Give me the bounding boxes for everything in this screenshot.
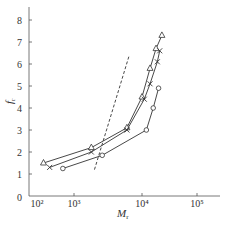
triangle-marker xyxy=(159,32,165,38)
triangle-marker xyxy=(147,65,153,71)
x-tick-label: 10⁵ xyxy=(190,198,204,209)
x-tick-label: 10⁴ xyxy=(135,198,149,209)
data-series xyxy=(41,32,165,171)
y-tick-label: 0 xyxy=(17,192,22,203)
x-tick-label: 10² xyxy=(31,198,44,209)
axes xyxy=(29,7,220,196)
y-ticks: 012345678 xyxy=(17,15,32,204)
circle-marker xyxy=(100,153,105,158)
x-marker xyxy=(89,150,94,155)
x-marker xyxy=(47,165,52,170)
circle-marker xyxy=(61,166,66,171)
y-tick-label: 4 xyxy=(17,103,22,114)
circle-marker xyxy=(144,128,149,133)
y-tick-label: 8 xyxy=(17,15,22,26)
circle-marker xyxy=(151,106,156,111)
circle-marker xyxy=(156,86,161,91)
y-tick-label: 2 xyxy=(17,147,22,158)
series-line-dashed xyxy=(94,55,129,169)
x-axis-label: Mr xyxy=(116,207,129,221)
triangle-marker xyxy=(139,94,145,100)
x-tick-label: 10³ xyxy=(68,198,81,209)
y-tick-label: 1 xyxy=(17,169,22,180)
chart: 012345678 10²10³10⁴10⁵ Mr fr xyxy=(0,0,226,228)
y-tick-label: 6 xyxy=(17,59,22,70)
series-line-cross xyxy=(50,51,160,168)
x-marker xyxy=(148,81,153,86)
y-tick-label: 3 xyxy=(17,125,22,136)
y-tick-label: 5 xyxy=(17,81,22,92)
y-axis-label: fr xyxy=(3,98,17,104)
y-tick-label: 7 xyxy=(17,37,22,48)
